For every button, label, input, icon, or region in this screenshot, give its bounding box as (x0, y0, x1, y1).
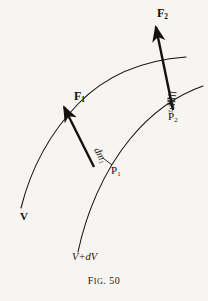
velocity-label-v: V (20, 211, 28, 222)
force-label-f2: F2 (157, 7, 168, 20)
figure-50-container: F2 F1 dm1 dm2 P1 P2 V V+dV FIG. 50 (0, 0, 208, 301)
streamline-arc-inner (21, 57, 186, 208)
point-label-p2: P2 (168, 111, 178, 123)
streamline-arc-outer (78, 86, 203, 252)
velocity-label-v-plus-dv: V+dV (72, 252, 97, 263)
force-vector-f1-arrow (64, 107, 94, 167)
figure-caption-text: FIG. 50 (88, 275, 121, 286)
force-label-f1: F1 (74, 90, 85, 103)
point-label-p1: P1 (111, 165, 121, 177)
figure-caption: FIG. 50 (0, 275, 208, 286)
